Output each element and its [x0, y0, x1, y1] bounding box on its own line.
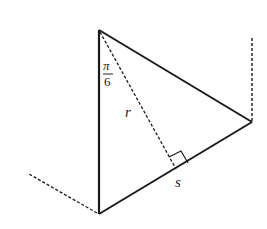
angle-label-numerator: π: [103, 58, 110, 73]
side-top: [99, 30, 252, 122]
dashed-extension-left: [29, 174, 97, 213]
triangle-diagram: π 6 r s: [0, 0, 267, 229]
radius-label: r: [125, 104, 131, 120]
angle-label-denominator: 6: [104, 74, 111, 89]
side-label: s: [175, 174, 181, 190]
